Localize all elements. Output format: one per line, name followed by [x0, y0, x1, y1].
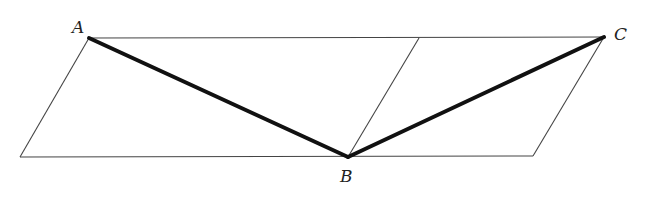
edge-line — [20, 38, 89, 157]
bold-segment — [348, 37, 604, 157]
bold-path — [89, 37, 604, 157]
bold-segment — [89, 38, 348, 157]
parallelogram-diagram: A C B — [0, 0, 651, 204]
label-a: A — [70, 17, 84, 37]
edge-line — [89, 37, 604, 38]
label-c: C — [614, 24, 627, 44]
label-b: B — [339, 166, 353, 186]
edge-line — [20, 156, 533, 157]
